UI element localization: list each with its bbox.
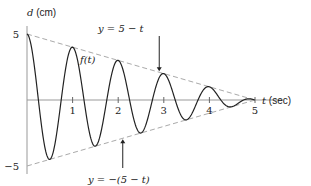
x-axis-label: t (sec) [262, 95, 291, 106]
y-tick-label: 5 [13, 29, 19, 40]
x-tick-label: 2 [115, 105, 121, 116]
x-axis-unit: (sec) [266, 95, 291, 106]
y-tick-label: −5 [4, 161, 19, 172]
upper-envelope-line [27, 34, 255, 100]
arrow-lower-head [120, 139, 125, 143]
y-axis-label: d (cm) [27, 7, 56, 18]
annotation-lower-envelope: y = −(5 − t) [87, 174, 150, 185]
x-tick-label: 1 [69, 105, 75, 116]
damped-oscillation-chart: 123455−5 d (cm) t (sec) y = 5 − t f(t) y… [0, 0, 311, 186]
arrow-upper-head [157, 67, 162, 71]
x-tick-label: 4 [206, 105, 212, 116]
annotation-arrows [120, 36, 161, 168]
annotation-f-of-t: f(t) [79, 54, 96, 65]
x-tick-label: 3 [161, 105, 167, 116]
annotation-upper-envelope: y = 5 − t [97, 23, 144, 34]
x-tick-label: 5 [252, 105, 258, 116]
series-f-of-t [27, 34, 255, 159]
y-axis-unit: (cm) [33, 7, 56, 18]
